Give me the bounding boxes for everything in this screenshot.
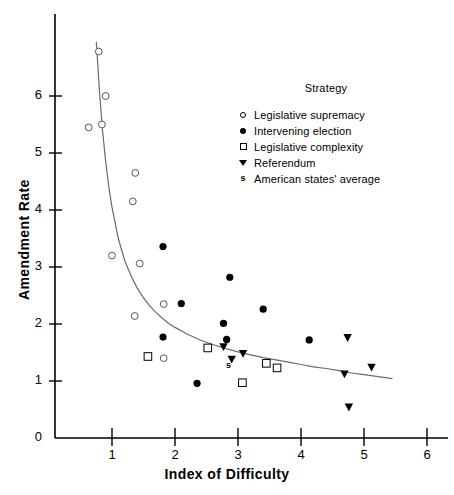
data-point <box>109 252 116 259</box>
data-point <box>95 48 102 55</box>
filled-circle-icon <box>232 128 254 134</box>
legend-marker-glyph: s <box>240 174 245 183</box>
scatter-plot-figure: s Amendment Rate Index of Difficulty 012… <box>0 0 454 495</box>
x-tick-label: 1 <box>102 447 122 462</box>
data-point <box>340 371 348 379</box>
data-point <box>260 306 267 313</box>
y-tick-label: 2 <box>18 315 42 330</box>
legend-item: Legislative complexity <box>232 139 444 154</box>
y-axis-title: Amendment Rate <box>16 179 32 300</box>
legend-title: Strategy <box>246 82 406 94</box>
x-axis-ticks <box>112 428 427 446</box>
legend-marker-glyph <box>240 128 246 134</box>
data-point <box>132 170 139 177</box>
data-point <box>193 380 200 387</box>
data-point <box>99 121 106 128</box>
legend-items: Legislative supremacyIntervening electio… <box>232 107 444 186</box>
data-point <box>223 336 230 343</box>
triangle-down-icon <box>232 160 254 166</box>
legend-marker-glyph <box>239 160 247 166</box>
open-square-icon <box>232 143 254 150</box>
data-point <box>102 93 109 100</box>
data-point <box>263 360 271 368</box>
data-point <box>306 336 313 343</box>
data-point <box>85 124 92 131</box>
data-point <box>131 313 138 320</box>
legend-marker-glyph <box>240 112 246 118</box>
data-point <box>345 404 353 412</box>
y-tick-label: 1 <box>18 372 42 387</box>
data-point <box>144 353 152 361</box>
x-tick-label: 6 <box>417 447 437 462</box>
data-point <box>160 355 167 362</box>
y-tick-label: 4 <box>18 201 42 216</box>
data-point <box>160 301 167 308</box>
data-point <box>343 334 351 342</box>
data-point <box>367 364 375 372</box>
data-point <box>159 334 166 341</box>
data-point <box>178 300 185 307</box>
data-point <box>204 344 212 352</box>
x-tick-label: 3 <box>228 447 248 462</box>
x-tick-label: 5 <box>354 447 374 462</box>
axis-lines <box>55 14 448 438</box>
data-point <box>273 364 281 372</box>
data-point <box>220 320 227 327</box>
legend: Strategy Legislative supremacyIntervenin… <box>232 82 444 187</box>
legend-item: Referendum <box>232 155 444 170</box>
x-axis-title: Index of Difficulty <box>0 466 454 482</box>
y-tick-label: 5 <box>18 144 42 159</box>
data-point <box>136 260 143 267</box>
y-tick-label: 3 <box>18 258 42 273</box>
legend-item: Legislative supremacy <box>232 107 444 122</box>
x-tick-label: 2 <box>165 447 185 462</box>
legend-item-label: Referendum <box>254 157 316 169</box>
data-point <box>159 243 166 250</box>
plot-canvas: s <box>0 0 454 495</box>
data-point: s <box>226 360 231 370</box>
data-point <box>226 274 233 281</box>
y-tick-label: 6 <box>18 87 42 102</box>
legend-item-label: American states' average <box>254 173 380 185</box>
data-point <box>239 379 247 387</box>
legend-item: Intervening election <box>232 123 444 138</box>
legend-item-label: Legislative supremacy <box>254 109 365 121</box>
data-point <box>129 198 136 205</box>
open-circle-icon <box>232 112 254 118</box>
legend-item-label: Legislative complexity <box>254 141 363 153</box>
y-tick-label: 0 <box>18 429 42 444</box>
x-tick-label: 4 <box>291 447 311 462</box>
legend-item-label: Intervening election <box>254 125 351 137</box>
legend-marker-glyph <box>240 143 247 150</box>
s-glyph-icon: s <box>232 174 254 183</box>
legend-item: sAmerican states' average <box>232 171 444 186</box>
